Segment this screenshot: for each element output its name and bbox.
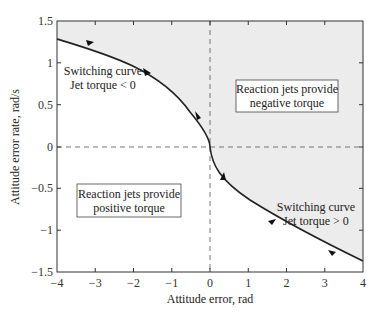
annotation-jet-torque-neg: Jet torque < 0 bbox=[70, 78, 136, 92]
y-tick-label: −1.5 bbox=[31, 265, 53, 279]
x-tick-label: −2 bbox=[127, 276, 140, 290]
annotation-positive-torque-2: positive torque bbox=[93, 201, 165, 215]
x-axis-label: Attitude error, rad bbox=[167, 292, 253, 306]
annotation-jet-torque-pos: Jet torque > 0 bbox=[283, 214, 349, 228]
x-tick-label: −1 bbox=[165, 276, 178, 290]
phase-plane-chart: −4 −3 −2 −1 0 1 2 3 4 1.5 1 0.5 0 −0.5 −… bbox=[0, 0, 381, 316]
annotation-switching-curve-neg: Switching curve bbox=[64, 64, 142, 78]
x-tick-label: 3 bbox=[322, 276, 328, 290]
annotation-negative-torque-1: Reaction jets provide bbox=[236, 82, 338, 96]
x-tick-label: 0 bbox=[207, 276, 213, 290]
x-tick-label: 1 bbox=[245, 276, 251, 290]
annotation-switching-curve-pos: Switching curve bbox=[277, 200, 355, 214]
annotation-positive-torque-1: Reaction jets provide bbox=[78, 187, 180, 201]
arrow-marker-icon bbox=[328, 250, 336, 256]
y-tick-label: 0 bbox=[47, 140, 53, 154]
y-axis-label: Attitude error rate, rad/s bbox=[8, 89, 22, 205]
x-tick-label: 4 bbox=[360, 276, 366, 290]
y-tick-label: −0.5 bbox=[31, 181, 53, 195]
y-tick-label: 0.5 bbox=[38, 98, 53, 112]
x-tick-label: 2 bbox=[284, 276, 290, 290]
x-tick-label: −3 bbox=[89, 276, 102, 290]
annotation-negative-torque-2: negative torque bbox=[250, 96, 324, 110]
arrow-marker-icon bbox=[268, 219, 276, 225]
y-tick-label: −1 bbox=[40, 223, 53, 237]
y-tick-label: 1 bbox=[47, 56, 53, 70]
y-tick-label: 1.5 bbox=[38, 14, 53, 28]
